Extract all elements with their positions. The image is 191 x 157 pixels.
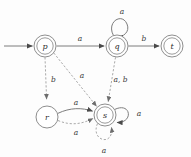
edge-q-self-loop: a xyxy=(112,7,128,37)
edge-p-to-q: a xyxy=(57,34,105,46)
state-label-q: q xyxy=(114,42,119,51)
state-label-p: p xyxy=(42,42,47,51)
edge-label-q-self: a xyxy=(120,7,124,16)
edge-label-s-self-right: a xyxy=(137,109,141,118)
edge-label-p-q: a xyxy=(78,34,82,43)
edge-s-self-loop-bottom: a xyxy=(96,124,112,155)
edge-label-p-r: b xyxy=(51,75,56,84)
edge-label-q-t: b xyxy=(142,34,147,43)
edge-label-s-self-bottom: a xyxy=(102,146,106,155)
state-r[interactable]: r xyxy=(36,106,58,128)
state-t[interactable]: t xyxy=(161,35,183,57)
edge-q-to-t: b xyxy=(128,34,159,46)
edge-label-p-s: a xyxy=(80,71,84,80)
edge-p-to-r-dashed: b xyxy=(45,57,56,99)
edge-label-r-s-top: a xyxy=(74,98,78,107)
edge-q-to-s-dashed: a, b xyxy=(108,57,128,101)
state-label-s: s xyxy=(103,111,107,120)
state-s[interactable]: s xyxy=(94,104,116,126)
automaton-svg: a a b a a b a xyxy=(0,0,191,157)
edge-label-r-s-bottom: a xyxy=(74,128,78,137)
state-q[interactable]: q xyxy=(106,35,128,57)
edge-s-self-loop-right: a xyxy=(115,108,142,123)
state-diagram-canvas: a a b a a b a xyxy=(0,0,191,157)
state-p[interactable]: p xyxy=(34,35,56,57)
edge-label-q-s: a, b xyxy=(113,75,127,84)
edge-r-to-s-dashed: a xyxy=(58,119,93,137)
edge-r-to-s-solid: a xyxy=(58,98,93,113)
